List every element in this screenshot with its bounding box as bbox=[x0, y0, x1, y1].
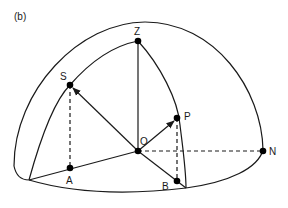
meridian-arc-szo bbox=[29, 41, 138, 180]
point-o bbox=[135, 148, 142, 155]
label-n: N bbox=[269, 146, 276, 157]
vector-o-s bbox=[73, 88, 138, 151]
label-p: P bbox=[184, 111, 191, 122]
label-z: Z bbox=[134, 26, 140, 37]
point-b bbox=[174, 178, 181, 185]
label-b: B bbox=[162, 181, 169, 192]
line-o-a bbox=[29, 151, 138, 180]
point-p bbox=[174, 115, 181, 122]
panel-label: (b) bbox=[14, 11, 26, 22]
base-edge-curve bbox=[14, 150, 263, 192]
point-s bbox=[67, 82, 74, 89]
point-a bbox=[67, 165, 74, 172]
meridian-arc-zp bbox=[138, 41, 186, 188]
point-n bbox=[260, 148, 267, 155]
label-o: O bbox=[140, 136, 148, 147]
hemisphere-diagram: (b) Z S O P N A B bbox=[0, 0, 288, 208]
label-a: A bbox=[66, 175, 73, 186]
label-s: S bbox=[60, 71, 67, 82]
point-z bbox=[135, 38, 142, 45]
